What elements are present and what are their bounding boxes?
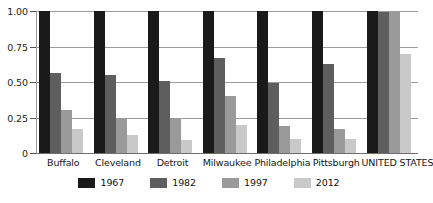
- y-axis: 1.000.750.500.250: [0, 0, 36, 165]
- y-tick-label: 0.75: [7, 41, 28, 52]
- category-label: Detroit: [145, 155, 200, 171]
- bar: [268, 83, 279, 153]
- category-label: Cleveland: [91, 155, 146, 171]
- bar-group: [36, 11, 91, 153]
- bar: [170, 119, 181, 153]
- legend-item[interactable]: 1982: [150, 177, 196, 188]
- bar: [203, 11, 214, 153]
- category-label: Buffalo: [36, 155, 91, 171]
- chart-legend: 1967198219972012: [0, 177, 418, 188]
- category-label: Pittsburgh: [309, 155, 364, 171]
- bar: [181, 140, 192, 153]
- bar: [257, 11, 268, 153]
- bar: [61, 110, 72, 153]
- bar-group: [145, 11, 200, 153]
- bar-group: [200, 11, 255, 153]
- category-labels: BuffaloClevelandDetroitMilwaukeePhiladel…: [36, 155, 418, 171]
- bar: [290, 139, 301, 153]
- legend-swatch-icon: [294, 178, 311, 188]
- bar-groups: [36, 11, 418, 153]
- bar: [159, 81, 170, 153]
- bar: [127, 135, 138, 153]
- bar: [105, 75, 116, 153]
- bar-group: [254, 11, 309, 153]
- category-label: UNITED STATES: [362, 155, 417, 171]
- bar: [279, 126, 290, 153]
- legend-swatch-icon: [222, 178, 239, 188]
- legend-swatch-icon: [78, 178, 95, 188]
- plot-area: [36, 11, 418, 153]
- bar: [312, 11, 323, 153]
- bar: [39, 11, 50, 153]
- bar: [116, 118, 127, 154]
- y-tick-label: 0: [22, 148, 28, 159]
- y-tick-label: 1.00: [7, 6, 28, 17]
- bar-group: [91, 11, 146, 153]
- bar: [72, 129, 83, 153]
- bar: [214, 58, 225, 153]
- bar: [334, 129, 345, 153]
- bar: [345, 139, 356, 153]
- legend-label: 1982: [172, 177, 196, 188]
- y-tick-label: 0.50: [7, 77, 28, 88]
- bar: [94, 11, 105, 153]
- axis-baseline: [36, 153, 418, 154]
- category-label: Milwaukee: [200, 155, 255, 171]
- legend-label: 2012: [316, 177, 340, 188]
- bar: [225, 96, 236, 153]
- bar: [323, 64, 334, 153]
- bar: [236, 125, 247, 153]
- legend-item[interactable]: 1967: [78, 177, 124, 188]
- bar: [50, 73, 61, 153]
- bar-group: [309, 11, 364, 153]
- legend-item[interactable]: 1997: [222, 177, 268, 188]
- category-label: Philadelphia: [254, 155, 309, 171]
- y-tick-label: 0.25: [7, 112, 28, 123]
- legend-label: 1997: [244, 177, 268, 188]
- bar: [389, 12, 400, 153]
- legend-label: 1967: [100, 177, 124, 188]
- legend-item[interactable]: 2012: [294, 177, 340, 188]
- bar: [148, 11, 159, 153]
- bar: [400, 54, 411, 153]
- bar: [378, 12, 389, 153]
- bar: [367, 11, 378, 153]
- legend-swatch-icon: [150, 178, 167, 188]
- bar-group: [364, 11, 419, 153]
